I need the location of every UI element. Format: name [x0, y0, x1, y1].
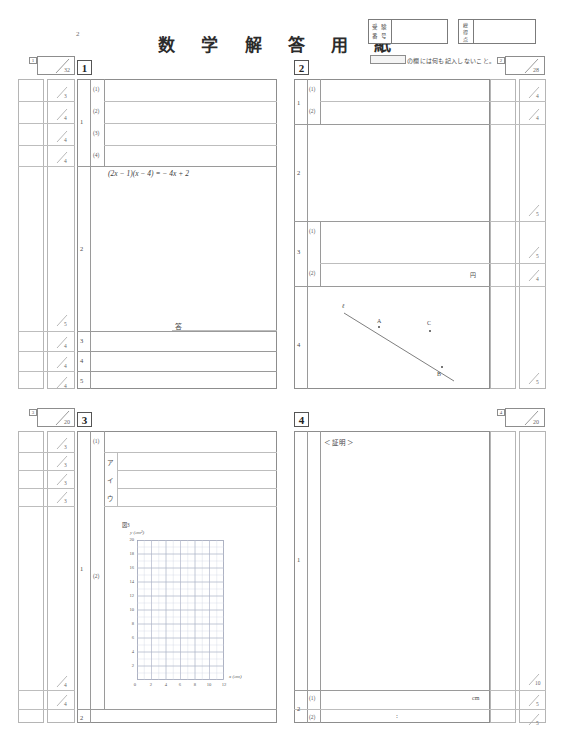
section-1-sub-label: (4) — [93, 152, 99, 158]
section-2-score-rule — [490, 286, 546, 287]
section-1-point-slash-icon — [56, 314, 69, 327]
section-1-total-denominator: 32 — [64, 67, 70, 73]
section-3-row-number: 1 — [80, 565, 83, 572]
section-4-badge: 4 — [294, 412, 309, 427]
section-1-rule — [77, 351, 277, 352]
section-3-point-slash-icon — [56, 675, 69, 688]
section-1-point-slash-icon — [56, 376, 69, 389]
section-3-score-rule — [18, 452, 75, 453]
section-3-score-rule — [18, 709, 75, 710]
section-1-point-slash-icon — [56, 130, 69, 143]
section-3-rule — [117, 488, 277, 489]
section-2-score-rule — [490, 101, 546, 102]
section-4-score-rule — [490, 690, 546, 691]
section-1-rule — [77, 331, 277, 332]
graph-y-tick: 2 — [120, 663, 134, 668]
section-2-rule — [320, 263, 490, 264]
section-4-score-column-left[interactable] — [490, 431, 516, 723]
section-2-sub-label: (1) — [309, 228, 315, 234]
figure-point-c-label: C — [427, 320, 431, 326]
section-2-row-number: 1 — [297, 99, 300, 106]
no-entry-note: の欄には何も記入しないこと。 — [370, 49, 495, 67]
graph-x-tick: 12 — [219, 682, 229, 687]
section-1-score-column-left[interactable] — [18, 79, 44, 389]
section-3-rule — [104, 506, 277, 507]
section-2-row-number: 4 — [297, 341, 300, 348]
graph-y-tick: 16 — [120, 565, 134, 570]
section-3-point-mark: 3 — [64, 444, 67, 450]
section-4-point-mark: 10 — [535, 680, 541, 686]
section-1-score-rule — [18, 101, 75, 102]
section-1-rule — [104, 123, 277, 124]
section-2-point-slash-icon — [528, 108, 541, 121]
section-1-rule — [104, 145, 277, 146]
graph-caption: 図3 — [122, 521, 130, 528]
section-1-point-slash-icon — [56, 356, 69, 369]
section-2-score-column-left[interactable] — [490, 79, 516, 389]
section-1-row-number: 1 — [80, 118, 83, 125]
section-2-score-rule — [490, 124, 546, 125]
section-2-rule — [320, 101, 490, 102]
no-entry-note-text: の欄には何も記入しないこと。 — [407, 58, 495, 64]
section-1-row-number: 5 — [80, 377, 83, 384]
section-3-rownum-divider — [90, 431, 91, 723]
section-4-point-mark: 5 — [536, 701, 539, 707]
section-2-rule — [294, 221, 490, 222]
graph-plot-area[interactable] — [137, 540, 224, 680]
section-3-badge: 3 — [77, 412, 92, 427]
section-2-point-slash-icon — [528, 246, 541, 259]
figure-point-a-label: A — [377, 318, 381, 324]
section-4-point-mark: 5 — [536, 720, 539, 726]
section-3-point-mark: 4 — [64, 682, 67, 688]
section-3-sub-label: (1) — [93, 438, 99, 444]
section-2-sub-label: (2) — [309, 108, 315, 114]
graph-y-tick: 8 — [120, 621, 134, 626]
section-1-point-slash-icon — [56, 336, 69, 349]
section-2-score-rule — [490, 263, 546, 264]
section-4-sub-label: (2) — [309, 714, 315, 720]
section-2-point-mark: 5 — [536, 253, 539, 259]
figure-point-b-dot — [441, 366, 443, 368]
section-2-point-slash-icon — [528, 372, 541, 385]
section-2-sub-label: (2) — [309, 270, 315, 276]
graph-y-tick: 6 — [120, 635, 134, 640]
section-3-kana-divider — [117, 452, 118, 506]
graph-y-tick: 4 — [120, 649, 134, 654]
section-1-row-number: 4 — [80, 357, 83, 364]
section-4-row-number: 1 — [297, 556, 300, 563]
section-2-point-mark: 4 — [536, 276, 539, 282]
section-1-equation: (2x − 1)(x − 4) = − 4x + 2 — [108, 169, 189, 178]
section-1-sub-label: (2) — [93, 108, 99, 114]
exam-number-label-line2: 番 号 — [368, 31, 392, 41]
section-3-score-column-left[interactable] — [18, 431, 44, 723]
graph-x-tick: 4 — [161, 682, 171, 687]
page-title: 数 学 解 答 用 紙 — [158, 31, 402, 56]
section-2-score-column-right[interactable] — [519, 79, 546, 389]
section-1-score-rule — [18, 371, 75, 372]
graph-x-axis-label: x (cm) — [229, 674, 242, 679]
section-3-margin-badge: 3 — [29, 409, 37, 416]
section-3-score-rule — [18, 488, 75, 489]
section-4-sub-divider — [320, 431, 321, 723]
figure-point-a-dot — [378, 326, 380, 328]
section-1-row-number: 3 — [80, 337, 83, 344]
section-1-point-mark: 4 — [64, 115, 67, 121]
section-1-point-slash-icon — [56, 86, 69, 99]
section-2-point-slash-icon — [528, 269, 541, 282]
section-4-score-rule — [490, 709, 546, 710]
section-3-total-denominator: 20 — [64, 419, 70, 425]
section-4-ratio-symbol: : — [396, 712, 398, 720]
section-1-point-mark: 4 — [64, 158, 67, 164]
section-3-rule — [104, 452, 277, 453]
section-1-answer-area — [77, 79, 277, 389]
section-1-point-mark: 3 — [64, 93, 67, 99]
graph-y-tick: 18 — [120, 551, 134, 556]
section-1-score-rule — [18, 166, 75, 167]
section-2-point-slash-icon — [528, 204, 541, 217]
section-1-rownum-divider — [90, 79, 91, 389]
section-1-point-mark: 5 — [64, 321, 67, 327]
section-1-score-rule — [18, 123, 75, 124]
section-4-proof-label: ＜証明＞ — [324, 437, 354, 447]
section-4-rule — [294, 709, 490, 710]
section-2-score-rule — [490, 221, 546, 222]
